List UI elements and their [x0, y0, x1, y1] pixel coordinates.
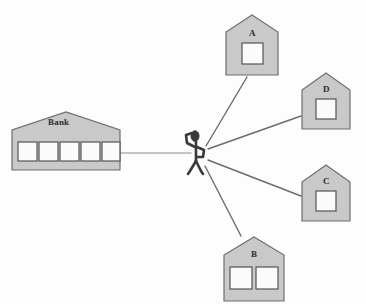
diagram-canvas: Bank A D C B [0, 0, 366, 304]
house-b[interactable] [224, 237, 284, 301]
person-figure[interactable] [186, 131, 204, 174]
person-left-leg [188, 161, 196, 174]
bank-window-2 [39, 142, 58, 161]
connection-person-house-a [206, 77, 247, 146]
person-right-leg [196, 161, 203, 174]
house-d-window-1 [316, 99, 336, 119]
house-d-label: D [323, 84, 330, 94]
house-c-window-1 [316, 191, 336, 211]
bank-window-5 [102, 142, 120, 161]
house-b-window-1 [230, 267, 252, 289]
house-a-window-1 [242, 43, 263, 64]
house-c[interactable] [302, 165, 350, 221]
bank-window-4 [81, 142, 100, 161]
house-c-label: C [323, 176, 330, 186]
bank-window-3 [60, 142, 79, 161]
diagram-scene [0, 0, 366, 304]
house-b-label: B [251, 249, 257, 259]
house-b-window-2 [256, 267, 278, 289]
connection-lines [120, 77, 301, 236]
house-d[interactable] [302, 73, 350, 129]
person-right-arm [197, 147, 204, 157]
bank-window-1 [18, 142, 37, 161]
house-a[interactable] [226, 15, 278, 75]
connection-person-house-c [208, 160, 301, 196]
connection-person-house-b [205, 166, 241, 236]
connection-person-house-d [208, 116, 301, 149]
house-a-label: A [249, 28, 256, 38]
bank-label: Bank [48, 117, 69, 127]
